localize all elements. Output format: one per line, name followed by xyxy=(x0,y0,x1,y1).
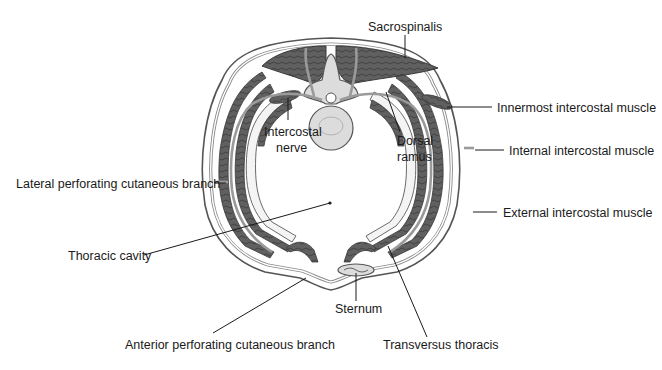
label-thoracic-cavity: Thoracic cavity xyxy=(68,249,152,263)
vertebral-foramen xyxy=(326,93,336,103)
label-anterior-perforating: Anterior perforating cutaneous branch xyxy=(125,338,335,352)
label-innermost-intercostal: Innermost intercostal muscle xyxy=(497,101,656,115)
label-internal-intercostal: Internal intercostal muscle xyxy=(509,144,654,158)
label-dorsal-ramus-2: ramus xyxy=(397,150,432,164)
label-lateral-perforating: Lateral perforating cutaneous branch xyxy=(16,177,220,191)
label-sternum: Sternum xyxy=(335,302,382,316)
label-dorsal-ramus-1: Dorsal xyxy=(397,134,433,148)
label-sacrospinalis: Sacrospinalis xyxy=(368,20,442,34)
label-intercostal-nerve-1: Intercostal xyxy=(264,125,322,139)
label-intercostal-nerve-2: nerve xyxy=(276,141,307,155)
label-transversus-thoracis: Transversus thoracis xyxy=(383,338,499,352)
label-external-intercostal: External intercostal muscle xyxy=(503,206,652,220)
thoracic-wall-diagram: Sacrospinalis Intercostal nerve Dorsal r… xyxy=(0,0,662,370)
